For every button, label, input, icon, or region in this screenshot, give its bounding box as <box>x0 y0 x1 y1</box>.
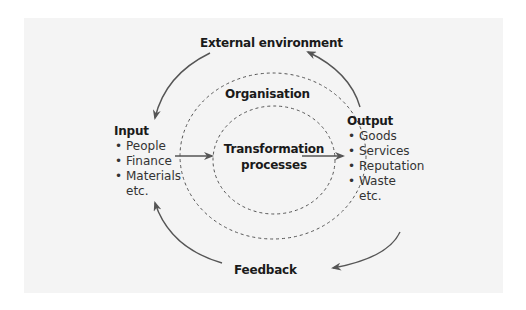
input-etc: etc. <box>114 184 181 199</box>
input-item: Finance <box>114 154 181 169</box>
transformation-line2: processes <box>214 157 334 173</box>
output-item: Reputation <box>347 159 424 174</box>
input-list: People Finance Materials etc. <box>114 139 181 199</box>
output-title: Output <box>347 114 393 128</box>
feedback-label: Feedback <box>234 263 297 277</box>
input-item: Materials <box>114 169 181 184</box>
input-item: People <box>114 139 181 154</box>
transformation-label: Transformation processes <box>214 141 334 173</box>
input-title: Input <box>114 124 149 138</box>
organisation-label: Organisation <box>225 87 310 101</box>
output-list: Goods Services Reputation Waste etc. <box>347 129 424 204</box>
arrow-feedback-to-input <box>155 203 222 263</box>
transformation-line1: Transformation <box>214 141 334 157</box>
arrow-output-to-feedback <box>333 232 400 268</box>
output-item: Goods <box>347 129 424 144</box>
external-environment-label: External environment <box>200 36 343 50</box>
arrow-output-to-environment <box>308 52 360 107</box>
output-etc: etc. <box>347 189 424 204</box>
output-item: Services <box>347 144 424 159</box>
arrow-environment-to-input <box>155 53 210 118</box>
output-item: Waste <box>347 174 424 189</box>
